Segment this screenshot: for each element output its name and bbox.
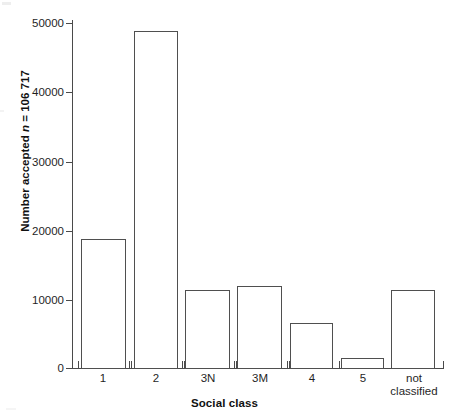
x-tick-label-2: 2: [126, 372, 186, 385]
y-tick-50000: [66, 23, 73, 24]
y-tick-10000: [66, 300, 73, 301]
y-tick-label-50000: 50000: [12, 17, 64, 29]
y-tick-label-10000: 10000: [12, 294, 64, 306]
y-axis-title-text: Number accepted: [19, 135, 31, 232]
bar-social-class-4: [290, 323, 333, 369]
bar-social-class-not-classified: [391, 290, 435, 369]
x-axis-title: Social class: [0, 397, 449, 409]
x-tick: [287, 361, 288, 369]
bar-chart-figure: 50000 40000 30000 20000 10000 0: [0, 0, 449, 418]
y-tick-0: [66, 368, 73, 369]
y-axis-line: [72, 20, 73, 369]
y-tick-30000: [66, 162, 73, 163]
y-tick-label-0: 0: [12, 362, 64, 374]
y-tick-40000: [66, 92, 73, 93]
x-tick-label-1: 1: [73, 372, 133, 385]
bar-social-class-5: [341, 358, 384, 369]
x-tick: [339, 361, 340, 369]
y-axis-title: Number accepted n = 106 717: [19, 51, 31, 251]
y-tick-20000: [66, 231, 73, 232]
x-tick: [129, 361, 130, 369]
x-tick-label-3m: 3M: [230, 372, 290, 385]
y-axis-stat-equals: =: [19, 112, 31, 125]
bar-social-class-3m: [237, 286, 282, 369]
bar-social-class-2: [134, 31, 178, 369]
y-axis-stat-value: 106 717: [19, 70, 31, 112]
x-tick: [78, 361, 79, 369]
x-tick-label-not-classified: not classified: [384, 372, 444, 398]
y-axis-title-spacer: [19, 132, 31, 135]
x-tick-label-3n: 3N: [178, 372, 238, 385]
x-tick: [131, 361, 132, 369]
bar-social-class-3n: [185, 290, 230, 369]
bar-social-class-1: [81, 239, 126, 369]
x-tick: [182, 361, 183, 369]
x-tick: [443, 361, 444, 369]
plot-area: 50000 40000 30000 20000 10000 0: [0, 0, 449, 418]
y-axis-stat-symbol: n: [19, 125, 31, 132]
x-tick: [234, 361, 235, 369]
